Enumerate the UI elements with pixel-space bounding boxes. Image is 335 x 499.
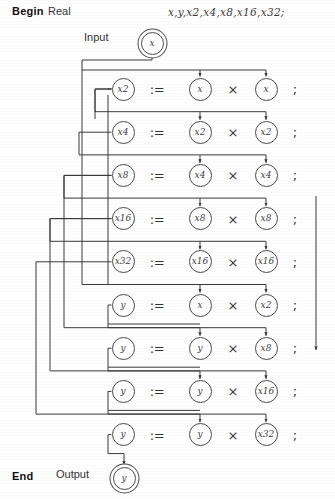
multiply-symbol-0: ×: [228, 83, 239, 96]
statement-terminator-5: ;: [293, 298, 297, 313]
statement-terminator-4: ;: [293, 254, 297, 269]
left-operand-node-0: x: [189, 78, 212, 101]
lhs-node-4: x32: [112, 250, 135, 273]
node-label: x16: [258, 257, 275, 266]
input-dropline: [82, 55, 152, 71]
node-label: x4: [195, 171, 206, 180]
x-to-row5-left: [82, 70, 200, 293]
assign-symbol-5: :=: [150, 298, 164, 313]
node-label: x8: [261, 344, 272, 353]
left-operand-node-2: x4: [189, 164, 212, 187]
node-label: y: [197, 387, 202, 396]
right-operand-node-7: x16: [255, 380, 278, 403]
node-label: x: [197, 301, 202, 310]
variable-declaration: x,y,x2,x4,x8,x16,x32;: [168, 7, 285, 18]
scan-grain-overlay: [0, 0, 335, 499]
node-label: x32: [115, 257, 132, 266]
right-operand-node-6: x8: [255, 337, 278, 360]
node-label: y: [121, 474, 126, 483]
node-label: x4: [261, 171, 272, 180]
lhs-node-8: y: [112, 423, 135, 446]
right-operand-node-8: x32: [255, 423, 278, 446]
right-operand-node-0: x: [255, 78, 278, 101]
x2-tap: [95, 89, 112, 119]
node-label: x2: [195, 128, 206, 137]
node-label: x: [149, 39, 154, 48]
multiply-symbol-1: ×: [228, 126, 239, 139]
right-operand-node-2: x4: [255, 164, 278, 187]
wiring-diagram: [0, 0, 335, 499]
rail-row0-right: [82, 70, 266, 77]
statement-terminator-2: ;: [293, 168, 297, 183]
right-operand-node-1: x2: [255, 121, 278, 144]
right-operand-node-5: x2: [255, 294, 278, 317]
left-operand-node-6: y: [189, 337, 212, 360]
node-label: x16: [115, 214, 132, 223]
left-operand-node-7: y: [189, 380, 212, 403]
output-node: y: [113, 467, 136, 490]
node-label: x32: [258, 430, 275, 439]
node-label: x: [263, 85, 268, 94]
y-chain-lane-7: [108, 410, 200, 414]
assign-symbol-7: :=: [150, 384, 164, 399]
multiply-symbol-3: ×: [228, 212, 239, 225]
end-keyword: End: [12, 471, 33, 482]
right-operand-node-3: x8: [255, 207, 278, 230]
multiply-symbol-2: ×: [228, 169, 239, 182]
input-node: x: [141, 32, 164, 55]
lhs-node-3: x16: [112, 207, 135, 230]
y-chain-lane-6: [108, 367, 200, 371]
lhs-node-1: x4: [112, 121, 135, 144]
assign-symbol-8: :=: [150, 427, 164, 442]
y-chain-lane-5: [108, 324, 200, 328]
lhs-node-2: x8: [112, 164, 135, 187]
input-label: Input: [84, 32, 108, 43]
multiply-symbol-8: ×: [228, 428, 239, 441]
multiply-symbol-5: ×: [228, 299, 239, 312]
right-operand-node-4: x16: [255, 250, 278, 273]
lhs-node-0: x2: [112, 78, 135, 101]
node-label: x8: [261, 214, 272, 223]
left-operand-node-3: x8: [189, 207, 212, 230]
assign-symbol-2: :=: [150, 168, 164, 183]
node-label: x2: [261, 128, 272, 137]
node-label: x2: [261, 301, 272, 310]
node-label: x16: [192, 257, 209, 266]
node-label: y: [197, 344, 202, 353]
node-label: x8: [118, 171, 129, 180]
type-keyword: Real: [48, 6, 71, 17]
node-label: y: [197, 430, 202, 439]
node-label: y: [120, 430, 125, 439]
multiply-symbol-6: ×: [228, 342, 239, 355]
statement-terminator-0: ;: [293, 82, 297, 97]
multiply-symbol-7: ×: [228, 385, 239, 398]
statement-terminator-1: ;: [293, 125, 297, 140]
node-label: x4: [118, 128, 129, 137]
assign-symbol-3: :=: [150, 211, 164, 226]
node-label: x16: [258, 387, 275, 396]
assign-symbol-6: :=: [150, 341, 164, 356]
node-label: y: [120, 301, 125, 310]
assign-symbol-0: :=: [150, 82, 164, 97]
begin-keyword: Begin: [12, 6, 44, 17]
left-operand-node-8: y: [189, 423, 212, 446]
statement-terminator-3: ;: [293, 211, 297, 226]
lhs-node-7: y: [112, 380, 135, 403]
lhs-node-6: y: [112, 337, 135, 360]
assign-symbol-1: :=: [150, 125, 164, 140]
diagram-page: Begin Real x,y,x2,x4,x8,x16,x32; Input ;…: [0, 0, 335, 499]
statement-terminator-6: ;: [293, 341, 297, 356]
node-label: y: [120, 387, 125, 396]
node-label: x2: [118, 85, 129, 94]
node-label: y: [120, 344, 125, 353]
multiply-symbol-4: ×: [228, 255, 239, 268]
node-label: x8: [195, 214, 206, 223]
output-label: Output: [56, 469, 89, 480]
x2-to-row5-right: [108, 285, 266, 293]
left-operand-node-4: x16: [189, 250, 212, 273]
node-label: x: [197, 85, 202, 94]
statement-terminator-8: ;: [293, 427, 297, 442]
lhs-node-5: y: [112, 294, 135, 317]
left-operand-node-5: x: [189, 294, 212, 317]
statement-terminator-7: ;: [293, 384, 297, 399]
